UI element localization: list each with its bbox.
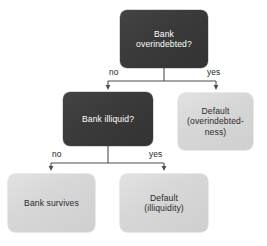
edge-label-illiquid-no: no: [52, 149, 62, 159]
edge-illiquid-branch: [51, 146, 164, 169]
edge-label-illiquid-yes: yes: [149, 149, 162, 159]
node-bank-survives-label: Bank survives: [8, 198, 95, 208]
node-default-illiquidity[interactable]: Default (illiquidity): [120, 174, 208, 232]
node-bank-illiquid[interactable]: Bank illiquid?: [63, 92, 153, 146]
node-default-overindebtedness-label: Default (overindebted- ness): [178, 106, 253, 136]
node-bank-survives[interactable]: Bank survives: [8, 174, 95, 232]
edge-label-overindebted-yes: yes: [207, 67, 220, 77]
edge-overindebted-branch: [108, 68, 216, 88]
decision-tree-diagram: Bank overindebted? no yes Bank illiquid?…: [0, 0, 267, 246]
node-bank-overindebted[interactable]: Bank overindebted?: [120, 10, 208, 68]
node-default-illiquidity-label: Default (illiquidity): [120, 193, 208, 213]
node-bank-overindebted-label: Bank overindebted?: [120, 29, 208, 49]
node-default-overindebtedness[interactable]: Default (overindebted- ness): [178, 93, 253, 150]
node-bank-illiquid-label: Bank illiquid?: [63, 114, 153, 124]
edge-label-overindebted-no: no: [109, 67, 119, 77]
